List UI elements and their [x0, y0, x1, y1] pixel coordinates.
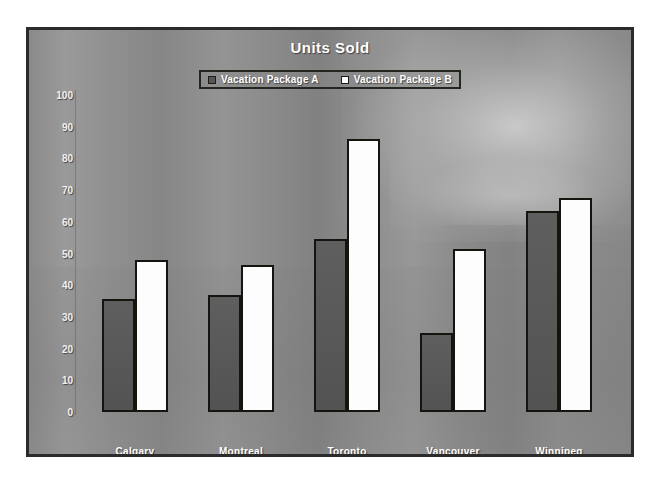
y-axis-tick-40: 40 — [43, 280, 73, 291]
x-axis-label-calgary: Calgary — [116, 446, 155, 457]
plot-area: 0102030405060708090100 CalgaryMontrealTo… — [29, 30, 631, 454]
y-axis-line — [75, 90, 76, 415]
x-axis-label-winnipeg: Winnipeg — [535, 446, 582, 457]
bar-vancouver-series-a[interactable] — [420, 333, 453, 412]
y-axis-tick-labels: 0102030405060708090100 — [29, 30, 73, 454]
bar-winnipeg-series-b[interactable] — [559, 198, 592, 412]
y-axis-tick-0: 0 — [43, 407, 73, 418]
y-axis-tick-60: 60 — [43, 216, 73, 227]
y-axis-tick-10: 10 — [43, 375, 73, 386]
chart-frame: Units Sold Vacation Package A Vacation P… — [26, 27, 634, 457]
bar-montreal-series-b[interactable] — [241, 265, 274, 412]
chart-container: Units Sold Vacation Package A Vacation P… — [0, 0, 662, 484]
bar-vancouver-series-b[interactable] — [453, 249, 486, 412]
y-axis-tick-50: 50 — [43, 248, 73, 259]
bar-montreal-series-a[interactable] — [208, 295, 241, 412]
x-axis-label-vancouver: Vancouver — [426, 446, 479, 457]
y-axis-tick-80: 80 — [43, 153, 73, 164]
bar-winnipeg-series-a[interactable] — [526, 211, 559, 412]
bar-calgary-series-b[interactable] — [135, 260, 168, 412]
bar-toronto-series-a[interactable] — [314, 239, 347, 412]
y-axis-tick-100: 100 — [43, 90, 73, 101]
y-axis-tick-70: 70 — [43, 185, 73, 196]
y-axis-tick-20: 20 — [43, 343, 73, 354]
y-axis-tick-90: 90 — [43, 121, 73, 132]
bar-toronto-series-b[interactable] — [347, 139, 380, 412]
x-axis-label-toronto: Toronto — [327, 446, 366, 457]
bar-calgary-series-a[interactable] — [102, 299, 135, 412]
y-axis-tick-30: 30 — [43, 311, 73, 322]
x-axis-label-montreal: Montreal — [219, 446, 263, 457]
